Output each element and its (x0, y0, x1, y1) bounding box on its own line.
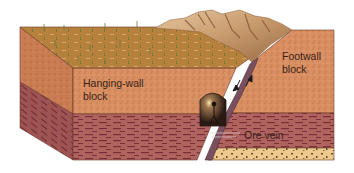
fault-block-diagram: Hanging-wall block Footwall block Ore ve… (0, 0, 354, 173)
hanging-wall-label-line1: Hanging-wall (83, 77, 144, 89)
footwall-label-line1: Footwall (282, 50, 321, 62)
ore-layer (208, 148, 334, 160)
footwall-label-line2: block (282, 63, 307, 75)
mine-tunnel (200, 93, 226, 126)
ore-vein-label: Ore vein (244, 129, 284, 141)
hanging-wall-strata (73, 114, 216, 160)
block-diagram-graphic (0, 0, 354, 173)
hanging-wall-label-line2: block (83, 90, 108, 102)
